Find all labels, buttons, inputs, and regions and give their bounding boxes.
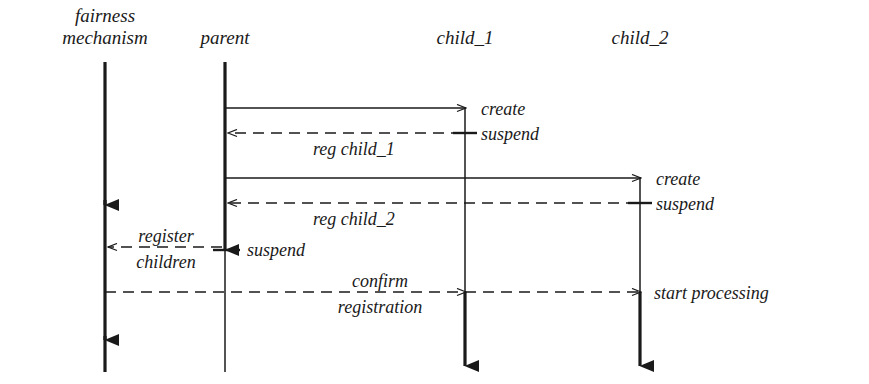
reg-child-1-label: reg child_1	[313, 139, 395, 159]
confirm-registration-label-line2: registration	[338, 297, 422, 317]
message-reg-child-2: reg child_2	[228, 203, 637, 229]
message-create-child-1: create	[225, 99, 525, 119]
message-create-child-2: create	[225, 169, 700, 189]
register-children-label-line1: register	[138, 226, 194, 246]
suspend-parent-label: suspend	[247, 240, 306, 260]
confirm-registration-label-line1: confirm	[352, 271, 408, 291]
header-child-2: child_2	[612, 27, 669, 48]
start-processing-label: start processing	[654, 283, 769, 303]
create-child-1-label: create	[481, 99, 525, 119]
header-fairness-line2: mechanism	[62, 27, 147, 48]
header-fairness-line1: fairness	[75, 5, 135, 26]
create-child-2-label: create	[656, 169, 700, 189]
message-start-processing: start processing	[654, 283, 769, 303]
lifeline-headers: fairness mechanism parent child_1 child_…	[62, 5, 669, 48]
message-suspend-parent: suspend	[213, 240, 306, 260]
suspend-child-2-label: suspend	[656, 194, 715, 214]
sequence-diagram: fairness mechanism parent child_1 child_…	[0, 0, 869, 384]
message-reg-child-1: reg child_1	[228, 133, 462, 159]
message-confirm-registration: confirm registration	[105, 271, 641, 317]
register-children-label-line2: children	[136, 252, 195, 272]
message-suspend-child-1: suspend	[453, 124, 540, 144]
reg-child-2-label: reg child_2	[313, 209, 395, 229]
suspend-child-1-label: suspend	[481, 124, 540, 144]
message-suspend-child-2: suspend	[628, 194, 715, 214]
message-register-children: register children	[108, 226, 222, 272]
header-child-1: child_1	[437, 27, 494, 48]
header-parent: parent	[199, 27, 251, 48]
